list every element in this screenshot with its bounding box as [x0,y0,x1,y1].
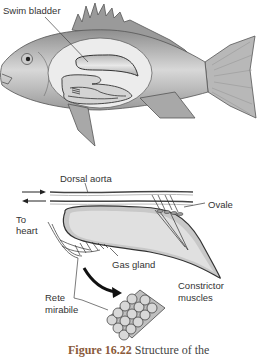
fish-illustration [1,3,257,146]
rete-mirabile-bundle [107,290,165,340]
label-constrictor-2: muscles [178,292,213,303]
label-dorsal-aorta: Dorsal aorta [60,173,112,184]
label-rete-1: Rete [45,292,65,303]
figure-caption: Figure 16.22 Structure of the [68,343,209,358]
label-constrictor-1: Constrictor [178,280,224,291]
label-swim-bladder: Swim bladder [3,5,61,16]
label-ovale: Ovale [208,199,233,210]
label-rete-2: mirabile [45,304,78,315]
label-to-heart-2: heart [16,225,38,236]
label-gas-gland: Gas gland [112,259,155,270]
caption-text: Structure of the [135,343,210,357]
figure-number: Figure 16.22 [68,343,132,357]
label-to-heart-1: To [16,214,26,225]
